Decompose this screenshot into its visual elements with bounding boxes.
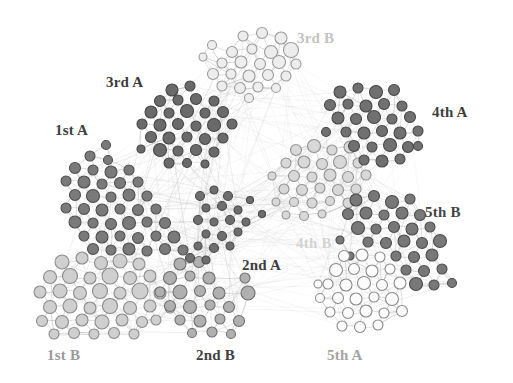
graph-node[interactable] bbox=[224, 192, 233, 201]
graph-node[interactable] bbox=[63, 269, 78, 284]
graph-node[interactable] bbox=[173, 119, 184, 130]
graph-node[interactable] bbox=[234, 206, 242, 214]
graph-node[interactable] bbox=[341, 127, 351, 137]
graph-node[interactable] bbox=[132, 283, 148, 299]
graph-node[interactable] bbox=[144, 270, 156, 282]
graph-node[interactable] bbox=[142, 191, 152, 201]
graph-node[interactable] bbox=[414, 142, 423, 151]
graph-node[interactable] bbox=[240, 273, 250, 283]
graph-node[interactable] bbox=[151, 231, 161, 241]
graph-node[interactable] bbox=[394, 277, 406, 289]
graph-node[interactable] bbox=[200, 108, 210, 118]
graph-node[interactable] bbox=[297, 185, 308, 196]
graph-node[interactable] bbox=[318, 210, 326, 218]
graph-node[interactable] bbox=[133, 177, 143, 187]
graph-node[interactable] bbox=[406, 223, 418, 235]
graph-node[interactable] bbox=[168, 231, 180, 243]
graph-node[interactable] bbox=[202, 204, 210, 212]
graph-node[interactable] bbox=[323, 279, 333, 289]
graph-node[interactable] bbox=[124, 302, 137, 315]
graph-node[interactable] bbox=[44, 271, 57, 284]
graph-node[interactable] bbox=[196, 192, 205, 201]
graph-node[interactable] bbox=[279, 184, 289, 194]
graph-node[interactable] bbox=[63, 299, 77, 313]
graph-node[interactable] bbox=[234, 316, 245, 327]
graph-node[interactable] bbox=[208, 41, 217, 50]
graph-node[interactable] bbox=[356, 249, 368, 261]
graph-node[interactable] bbox=[163, 132, 175, 144]
graph-node[interactable] bbox=[281, 158, 291, 168]
graph-node[interactable] bbox=[97, 179, 107, 189]
graph-node[interactable] bbox=[226, 216, 235, 225]
graph-node[interactable] bbox=[257, 28, 268, 39]
graph-node[interactable] bbox=[330, 264, 343, 277]
graph-node[interactable] bbox=[425, 222, 435, 232]
graph-node[interactable] bbox=[358, 277, 371, 290]
graph-node[interactable] bbox=[53, 284, 67, 298]
graph-node[interactable] bbox=[210, 186, 218, 194]
graph-node[interactable] bbox=[352, 222, 365, 235]
graph-node[interactable] bbox=[217, 58, 227, 68]
graph-node[interactable] bbox=[343, 209, 354, 220]
graph-node[interactable] bbox=[375, 252, 385, 262]
graph-node[interactable] bbox=[155, 287, 165, 297]
graph-node[interactable] bbox=[241, 286, 255, 300]
graph-node[interactable] bbox=[202, 230, 210, 238]
graph-node[interactable] bbox=[349, 141, 360, 152]
graph-node[interactable] bbox=[350, 194, 362, 206]
graph-node[interactable] bbox=[359, 155, 369, 165]
graph-node[interactable] bbox=[322, 128, 331, 137]
graph-node[interactable] bbox=[272, 84, 281, 93]
graph-node[interactable] bbox=[207, 327, 217, 337]
graph-node[interactable] bbox=[353, 83, 363, 93]
graph-node[interactable] bbox=[79, 204, 90, 215]
graph-node[interactable] bbox=[405, 194, 415, 204]
graph-node[interactable] bbox=[340, 279, 352, 291]
graph-node[interactable] bbox=[78, 176, 90, 188]
graph-node[interactable] bbox=[339, 251, 350, 262]
graph-node[interactable] bbox=[151, 315, 161, 325]
graph-node[interactable] bbox=[106, 245, 116, 255]
graph-node[interactable] bbox=[191, 94, 202, 105]
graph-node[interactable] bbox=[61, 176, 71, 186]
graph-node[interactable] bbox=[215, 314, 225, 324]
graph-node[interactable] bbox=[417, 238, 428, 249]
graph-node[interactable] bbox=[184, 301, 197, 314]
graph-node[interactable] bbox=[146, 132, 157, 143]
graph-node[interactable] bbox=[448, 279, 457, 288]
graph-node[interactable] bbox=[70, 190, 81, 201]
graph-node[interactable] bbox=[217, 81, 227, 91]
graph-node[interactable] bbox=[227, 330, 236, 339]
graph-node[interactable] bbox=[224, 302, 235, 313]
graph-node[interactable] bbox=[200, 134, 211, 145]
graph-node[interactable] bbox=[282, 211, 290, 219]
graph-node[interactable] bbox=[137, 145, 145, 153]
graph-node[interactable] bbox=[209, 147, 219, 157]
graph-node[interactable] bbox=[360, 207, 372, 219]
graph-node[interactable] bbox=[333, 185, 344, 196]
graph-node[interactable] bbox=[115, 178, 126, 189]
graph-node[interactable] bbox=[34, 286, 46, 298]
graph-node[interactable] bbox=[360, 305, 372, 317]
graph-node[interactable] bbox=[379, 99, 390, 110]
graph-node[interactable] bbox=[227, 47, 238, 58]
graph-node[interactable] bbox=[395, 154, 405, 164]
graph-node[interactable] bbox=[44, 301, 57, 314]
graph-node[interactable] bbox=[401, 265, 411, 275]
graph-node[interactable] bbox=[209, 96, 219, 106]
graph-node[interactable] bbox=[103, 299, 118, 314]
graph-node[interactable] bbox=[208, 119, 221, 132]
graph-node[interactable] bbox=[142, 217, 152, 227]
graph-node[interactable] bbox=[115, 204, 125, 214]
graph-node[interactable] bbox=[202, 256, 210, 264]
graph-node[interactable] bbox=[238, 31, 248, 41]
graph-node[interactable] bbox=[124, 272, 137, 285]
graph-node[interactable] bbox=[343, 308, 354, 319]
graph-node[interactable] bbox=[343, 99, 353, 109]
graph-node[interactable] bbox=[242, 218, 250, 226]
graph-node[interactable] bbox=[315, 183, 325, 193]
graph-node[interactable] bbox=[133, 258, 145, 270]
graph-node[interactable] bbox=[76, 314, 88, 326]
graph-node[interactable] bbox=[300, 212, 309, 221]
graph-node[interactable] bbox=[218, 107, 229, 118]
